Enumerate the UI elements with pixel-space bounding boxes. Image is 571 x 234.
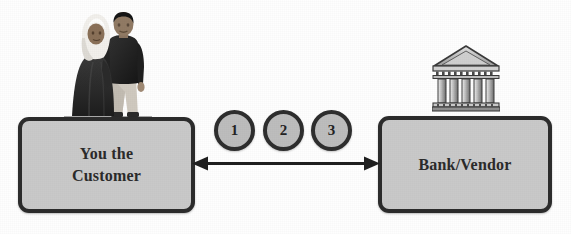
bank-building-illustration bbox=[432, 44, 500, 118]
customer-node-label: You the Customer bbox=[66, 143, 147, 186]
bidirectional-arrow bbox=[190, 150, 382, 178]
step-circle-2[interactable]: 2 bbox=[263, 110, 304, 151]
diagram-canvas: You the Customer Bank/Vendor 1 2 3 bbox=[0, 0, 571, 234]
step-circle-2-label: 2 bbox=[280, 122, 288, 139]
bank-node[interactable]: Bank/Vendor bbox=[378, 116, 552, 213]
step-circle-1[interactable]: 1 bbox=[214, 110, 255, 151]
step-circle-3-label: 3 bbox=[328, 122, 336, 139]
step-circle-1-label: 1 bbox=[231, 122, 239, 139]
step-circle-3[interactable]: 3 bbox=[311, 110, 352, 151]
bank-node-label: Bank/Vendor bbox=[412, 154, 517, 176]
two-people-illustration bbox=[62, 12, 154, 122]
customer-node[interactable]: You the Customer bbox=[18, 117, 195, 213]
